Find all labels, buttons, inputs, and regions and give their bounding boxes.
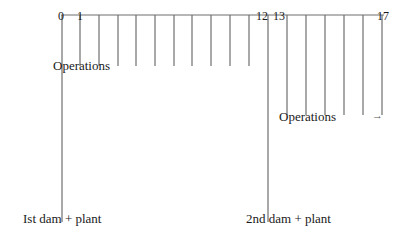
tick-label-12: 12 (256, 10, 268, 22)
tick-label-13: 13 (273, 10, 285, 22)
tick-label-0: 0 (58, 10, 64, 22)
operations-label-first: Operations (53, 60, 110, 72)
arrow-right-icon: → (372, 109, 383, 121)
operations-label-second: Operations (279, 111, 336, 123)
second-operations-lines (287, 15, 382, 115)
timeline-diagram: 0 1 12 13 17 Operations Operations → Ist… (0, 0, 406, 239)
tick-label-17: 17 (377, 10, 389, 22)
timeline-lines (0, 0, 406, 239)
second-dam-plant-label: 2nd dam + plant (246, 213, 331, 225)
first-dam-plant-label: Ist dam + plant (23, 213, 101, 225)
tick-label-1: 1 (77, 10, 83, 22)
